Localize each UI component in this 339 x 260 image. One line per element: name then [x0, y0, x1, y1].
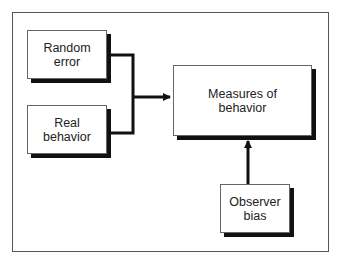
node-label-line: Observer — [229, 195, 280, 209]
node-label-line: Random — [43, 41, 90, 55]
node-random-error: Random error — [27, 30, 107, 79]
node-label-line: error — [43, 55, 90, 69]
node-label-line: bias — [229, 209, 280, 223]
node-label-line: behavior — [208, 101, 277, 115]
node-observer-bias: Observer bias — [220, 184, 290, 233]
node-measures-of-behavior: Measures of behavior — [173, 65, 312, 136]
node-label-line: Real — [43, 116, 91, 130]
node-label-line: behavior — [43, 130, 91, 144]
merge-connector — [111, 55, 170, 133]
node-label-line: Measures of — [208, 87, 277, 101]
node-real-behavior: Real behavior — [27, 105, 107, 154]
